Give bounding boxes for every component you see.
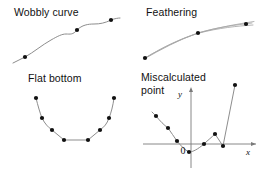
y-axis-arrow: [189, 87, 193, 92]
data-point-miscalculated: [221, 144, 225, 148]
x-axis-label: x: [245, 147, 250, 157]
y-axis-label: y: [177, 89, 182, 99]
data-point: [213, 132, 217, 136]
data-point: [175, 139, 179, 143]
miscalculated-point-plot: y x 0: [0, 0, 267, 172]
origin-label: 0: [181, 145, 186, 156]
x-axis-arrow: [251, 142, 256, 146]
data-point: [202, 142, 206, 146]
data-point: [166, 126, 170, 130]
miscalculated-curve-path: [152, 85, 235, 152]
figure-root: Wobbly curve Feathering Flat bottom Misc…: [0, 0, 267, 172]
data-point: [233, 83, 237, 87]
data-point: [154, 114, 158, 118]
data-point: [187, 150, 191, 154]
